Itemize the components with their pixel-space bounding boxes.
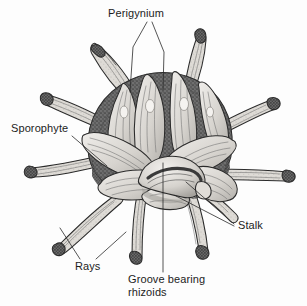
label-perigynium: Perigynium [108,7,164,19]
illustration-canvas: Perigynium Sporophyte Stalk Rays Groove … [0,0,307,306]
botanical-figure: Perigynium Sporophyte Stalk Rays Groove … [0,0,307,306]
label-rays: Rays [75,260,101,272]
label-groove-bearing-line2: rhizoids [128,286,167,298]
label-stalk: Stalk [238,219,263,231]
label-groove-bearing-line1: Groove bearing [128,273,205,285]
label-sporophyte: Sporophyte [11,122,68,134]
